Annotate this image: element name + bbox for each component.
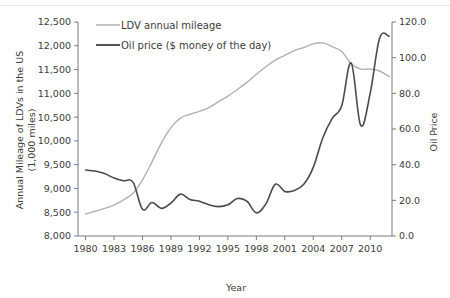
bottom-tick-label: 1989: [159, 243, 183, 254]
left-tick-label: 12,500: [38, 16, 71, 27]
right-tick-label: 120.0: [399, 16, 426, 27]
right-tick-label: 20.0: [399, 195, 420, 206]
bottom-tick-label: 2007: [330, 243, 354, 254]
left-axis-title: Annual Mileage of LDVs in the US: [14, 51, 25, 209]
bottom-axis-title: Year: [225, 282, 246, 293]
bottom-tick-label: 1998: [244, 243, 268, 254]
bottom-tick-label: 2001: [273, 243, 297, 254]
left-tick-label: 9,000: [44, 183, 71, 194]
right-tick-label: 100.0: [399, 52, 426, 63]
left-tick-label: 9,500: [44, 159, 71, 170]
chart-svg: 8,0008,5009,0009,50010,00010,50011,00011…: [0, 0, 450, 298]
left-axis-title-units: (1,000 miles): [26, 109, 37, 172]
left-axis-ticks: 8,0008,5009,0009,50010,00010,50011,00011…: [38, 16, 78, 241]
left-tick-label: 10,000: [38, 135, 71, 146]
bottom-tick-label: 1980: [73, 243, 97, 254]
right-tick-label: 60.0: [399, 123, 420, 134]
legend-label-ldv-annual-mileage: LDV annual mileage: [121, 20, 221, 31]
left-tick-label: 10,500: [38, 112, 71, 123]
right-tick-label: 40.0: [399, 159, 420, 170]
bottom-tick-label: 2010: [358, 243, 382, 254]
chart-figure: 8,0008,5009,0009,50010,00010,50011,00011…: [0, 0, 450, 298]
left-tick-label: 8,500: [44, 207, 71, 218]
right-tick-label: 0.0: [399, 230, 414, 241]
series-line-oil-price: [86, 33, 390, 213]
bottom-tick-label: 2004: [301, 243, 325, 254]
left-tick-label: 8,000: [44, 230, 71, 241]
left-tick-label: 12,000: [38, 40, 71, 51]
series-line-ldv-annual-mileage: [86, 43, 390, 214]
right-axis-title: Oil Price: [428, 112, 439, 151]
bottom-tick-label: 1983: [102, 243, 126, 254]
bottom-tick-label: 1986: [130, 243, 154, 254]
right-axis-ticks: 0.020.040.060.080.0100.0120.0: [392, 16, 426, 241]
legend: LDV annual mileage Oil price ($ money of…: [96, 20, 271, 51]
left-tick-label: 11,000: [38, 88, 71, 99]
legend-label-oil-price: Oil price ($ money of the day): [121, 40, 271, 51]
bottom-tick-label: 1992: [187, 243, 211, 254]
bottom-axis-ticks: 1980198319861989199219951998200120042007…: [73, 236, 382, 254]
left-tick-label: 11,500: [38, 64, 71, 75]
right-tick-label: 80.0: [399, 88, 420, 99]
bottom-tick-label: 1995: [216, 243, 240, 254]
